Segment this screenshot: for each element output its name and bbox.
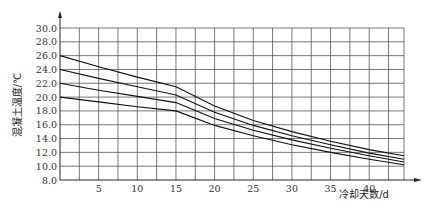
y-tick-label: 22.0: [36, 78, 57, 89]
temperature-curve: [60, 56, 404, 156]
x-tick-label: 35: [325, 183, 337, 194]
x-axis-label: 冷却天数/d: [339, 188, 389, 200]
axes: [58, 11, 422, 182]
y-tick-label: 28.0: [36, 36, 57, 47]
y-tick-label: 14.0: [36, 133, 57, 144]
temperature-cooling-chart: 8.010.012.014.016.018.020.022.024.026.02…: [0, 0, 432, 211]
x-tick-label: 5: [96, 183, 102, 194]
y-tick-label: 26.0: [36, 50, 57, 61]
temperature-curve: [60, 97, 404, 165]
y-tick-label: 10.0: [36, 161, 57, 172]
x-tick-label: 10: [131, 183, 143, 194]
curves: [60, 56, 404, 165]
x-tick-label: 25: [247, 183, 259, 194]
temperature-curve: [60, 83, 404, 162]
x-tick-label: 30: [286, 183, 298, 194]
y-tick-label: 30.0: [36, 23, 57, 34]
x-tick-label: 15: [170, 183, 182, 194]
y-tick-labels: 8.010.012.014.016.018.020.022.024.026.02…: [36, 23, 57, 186]
x-tick-labels: 510152025303540: [96, 183, 376, 194]
y-axis-arrow-icon: [58, 11, 62, 18]
y-tick-label: 12.0: [36, 147, 57, 158]
y-tick-label: 20.0: [36, 92, 57, 103]
y-tick-label: 18.0: [36, 105, 57, 116]
x-axis-arrow-icon: [414, 178, 422, 182]
y-tick-label: 16.0: [36, 119, 57, 130]
y-axis-label: 混凝土温度/℃: [11, 73, 23, 138]
y-tick-label: 24.0: [36, 64, 57, 75]
y-tick-label: 8.0: [42, 175, 57, 186]
x-tick-label: 20: [209, 183, 221, 194]
